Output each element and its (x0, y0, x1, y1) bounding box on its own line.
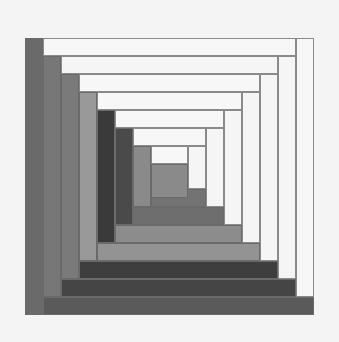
ring-2-left-strip (61, 74, 79, 279)
ring-1-top-strip (61, 56, 278, 74)
ring-1-right-strip (278, 56, 296, 279)
ring-5-bottom-strip (133, 207, 224, 225)
ring-3-top-strip (97, 92, 242, 110)
ring-2-top-strip (79, 74, 260, 92)
ring-0-bottom-strip (43, 297, 314, 315)
ring-3-left-strip (79, 92, 97, 261)
ring-0-left-strip (25, 38, 43, 315)
ring-6-left-strip (133, 146, 151, 207)
ring-4-top-strip (115, 110, 224, 128)
ring-4-bottom-strip (115, 225, 242, 243)
ring-2-right-strip (260, 74, 278, 261)
ring-5-right-strip (206, 128, 224, 207)
ring-4-left-strip (97, 110, 115, 243)
ring-6-top-strip (151, 146, 188, 164)
ring-5-left-strip (115, 128, 133, 225)
ring-3-bottom-strip (97, 243, 260, 261)
ring-5-top-strip (133, 128, 206, 146)
center-square (151, 164, 188, 198)
ring-3-right-strip (242, 92, 260, 243)
ring-6-right-strip (188, 146, 206, 189)
ring-1-bottom-strip (61, 279, 296, 297)
ring-0-top-strip (43, 38, 296, 56)
ring-4-right-strip (224, 110, 242, 225)
ring-0-right-strip (296, 38, 314, 297)
ring-1-left-strip (43, 56, 61, 297)
ring-2-bottom-strip (79, 261, 278, 279)
